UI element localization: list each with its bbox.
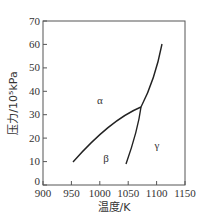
x-tick-label: 950: [63, 187, 80, 199]
y-tick-label: 40: [29, 85, 41, 97]
y-tick-label: 0: [35, 175, 41, 187]
alpha-region-label: α: [97, 94, 103, 106]
x-axis: [43, 181, 185, 185]
alpha-gamma-boundary: [141, 44, 162, 107]
beta-gamma-boundary: [126, 107, 141, 164]
x-tick-label: 1150: [174, 187, 196, 199]
y-tick-label: 10: [29, 155, 41, 167]
gamma-region-label: γ: [154, 139, 160, 151]
plot-frame: [43, 21, 185, 185]
y-axis-title: 压力/10⁵kPa: [7, 71, 20, 134]
phase-diagram: 0 10 20 30 40 50 60 70 900 950 1000 1050…: [0, 0, 208, 213]
y-tick-labels: 0 10 20 30 40 50 60 70: [29, 15, 41, 187]
y-axis: [43, 21, 47, 185]
x-tick-label: 1100: [146, 187, 168, 199]
x-tick-label: 900: [35, 187, 52, 199]
x-tick-labels: 900 950 1000 1050 1100 1150: [35, 187, 197, 199]
y-tick-label: 20: [29, 132, 41, 144]
y-tick-label: 30: [29, 108, 41, 120]
y-tick-label: 50: [29, 61, 41, 73]
y-tick-label: 70: [29, 15, 41, 27]
x-tick-label: 1000: [89, 187, 112, 199]
y-tick-label: 60: [29, 38, 41, 50]
x-axis-title: 温度/K: [98, 200, 132, 213]
x-tick-label: 1050: [117, 187, 140, 199]
beta-region-label: β: [103, 152, 109, 164]
